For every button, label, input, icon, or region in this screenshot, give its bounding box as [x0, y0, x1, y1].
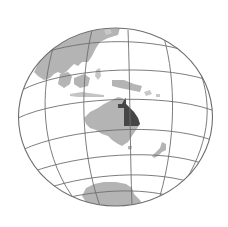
locator-globe-map: [0, 0, 228, 227]
